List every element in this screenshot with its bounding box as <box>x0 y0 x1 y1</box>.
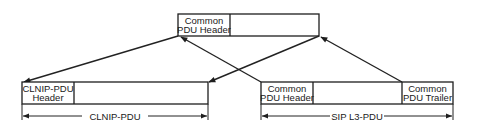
clnip-header-line2: Header <box>32 92 63 103</box>
arrow-top-left-to-clnip-left <box>24 36 178 82</box>
arrow-sip-trailer-to-top-right <box>321 37 402 82</box>
pdu-encapsulation-diagram: Common PDU Header CLNIP-PDU Header CLNIP… <box>0 0 477 130</box>
sip-dimension-label: SIP L3-PDU <box>331 111 383 122</box>
sip-l3-pdu-box: Common PDU Header Common PDU Trailer <box>260 82 453 104</box>
mapping-arrows <box>24 36 402 82</box>
arrow-top-right-to-clnip-right <box>209 36 319 82</box>
clnip-dimension: CLNIP-PDU <box>22 104 208 122</box>
sip-trailer-line2: PDU Trailer <box>403 92 452 103</box>
top-pdu-box: Common PDU Header <box>177 14 319 36</box>
sip-header-line2: PDU Header <box>260 92 314 103</box>
clnip-pdu-box: CLNIP-PDU Header <box>22 82 208 104</box>
clnip-dimension-label: CLNIP-PDU <box>89 111 140 122</box>
top-box-header-line2: PDU Header <box>177 24 231 35</box>
arrow-sip-left-to-top-left <box>181 37 261 82</box>
sip-dimension: SIP L3-PDU <box>261 104 453 122</box>
